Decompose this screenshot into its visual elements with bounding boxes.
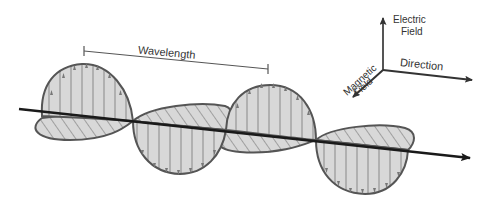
direction-label: Direction — [399, 56, 443, 72]
wavelength-label: Wavelength — [138, 43, 197, 60]
em-wave-diagram: Wavelength Electric Field Direction Magn… — [0, 0, 488, 209]
electric-field-label-line1: Electric — [393, 14, 426, 25]
wavelength-indicator: Wavelength — [84, 43, 268, 74]
electric-lobe-down-2 — [316, 140, 408, 194]
electric-field-label-line2: Field — [401, 26, 423, 37]
axis-triad: Electric Field Direction Magnetic Field — [341, 14, 472, 98]
direction-axis — [383, 70, 472, 80]
